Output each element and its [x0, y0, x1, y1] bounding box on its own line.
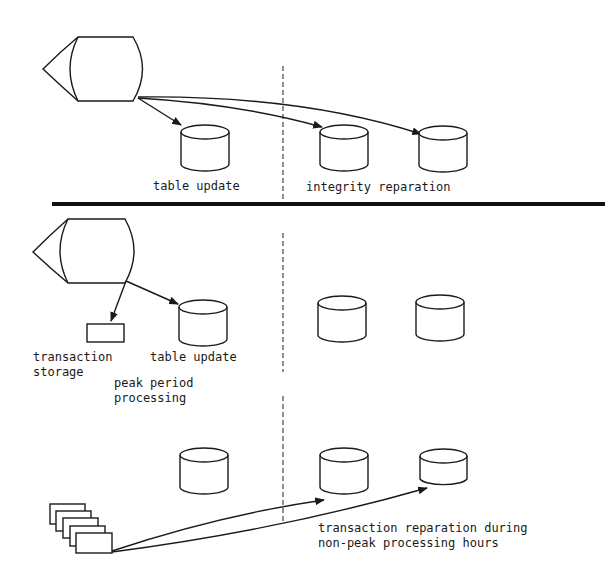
label-peak-period: peak period	[114, 376, 193, 390]
database-cylinder-icon	[179, 300, 227, 346]
section-immediate-integrity: table update integrity reparation	[43, 37, 467, 203]
label-table-update: table update	[150, 350, 237, 364]
database-cylinder-icon	[320, 125, 368, 171]
arrow-to-integrity-2	[138, 97, 421, 134]
database-cylinder-icon	[180, 448, 228, 494]
arrow-to-integrity-1	[138, 98, 322, 127]
diagram-canvas: table update integrity reparation transa…	[0, 0, 611, 579]
database-cylinder-icon	[419, 126, 467, 172]
database-cylinder-icon	[416, 295, 464, 341]
database-cylinder-icon	[320, 448, 368, 494]
transaction-cards-stack-icon	[50, 504, 112, 553]
database-cylinder-icon	[420, 449, 467, 485]
arrow-to-storage	[111, 281, 126, 321]
label-processing: processing	[114, 391, 186, 405]
label-transaction: transaction	[33, 350, 112, 364]
label-integrity-reparation: integrity reparation	[306, 180, 451, 194]
label-transaction-reparation: transaction reparation during	[318, 521, 528, 535]
arrow-to-table	[138, 98, 181, 125]
transaction-storage-box-icon	[87, 324, 124, 342]
section-non-peak: transaction reparation during non-peak p…	[50, 396, 528, 553]
database-cylinder-icon	[318, 296, 366, 342]
label-storage: storage	[33, 365, 84, 379]
arrow-to-reparation-1	[112, 500, 324, 551]
section-peak-period: transaction storage table update peak pe…	[33, 219, 464, 405]
arrow-to-table	[126, 281, 178, 304]
label-non-peak-hours: non-peak processing hours	[318, 536, 499, 550]
display-terminal-icon	[33, 219, 134, 283]
database-cylinder-icon	[181, 125, 229, 171]
label-table-update: table update	[153, 179, 240, 193]
display-terminal-icon	[43, 37, 143, 101]
